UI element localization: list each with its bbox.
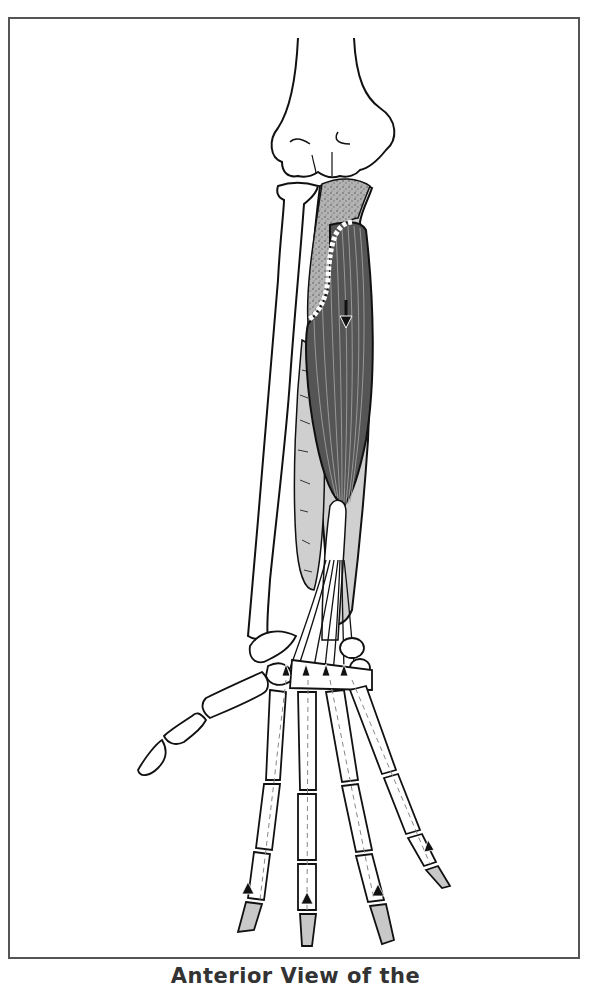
index-finger xyxy=(266,690,286,780)
figure-caption: Anterior View of the xyxy=(0,964,591,987)
ring-finger xyxy=(326,690,358,782)
humerus-bone xyxy=(272,38,395,177)
thumb-bones xyxy=(138,672,268,775)
middle-finger xyxy=(298,692,316,790)
